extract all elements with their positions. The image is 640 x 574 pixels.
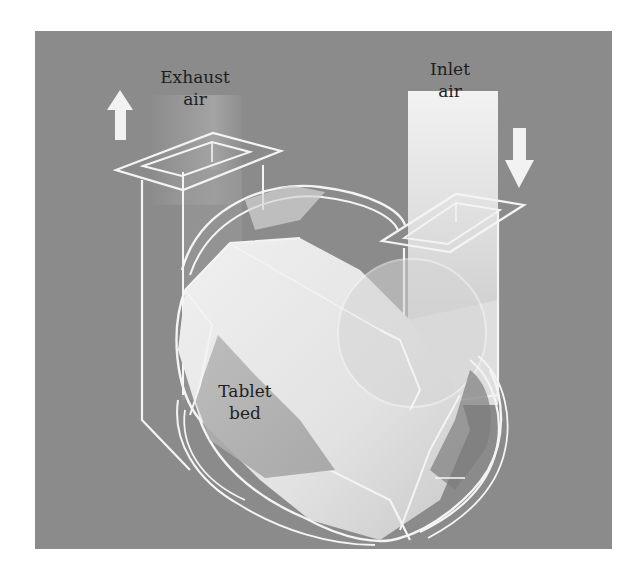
inlet-label-line2: air xyxy=(410,80,490,102)
exhaust-label-line1: Exhaust xyxy=(150,66,240,88)
exhaust-label-line2: air xyxy=(150,88,240,110)
inlet-label-line1: Inlet xyxy=(410,58,490,80)
arrow-down-icon xyxy=(505,128,534,188)
tablet-bed-label: Tablet bed xyxy=(205,380,285,424)
inlet-air-label: Inlet air xyxy=(410,58,490,102)
tablet-label-line2: bed xyxy=(205,402,285,424)
tablet-label-line1: Tablet xyxy=(205,380,285,402)
arrow-up-icon xyxy=(107,90,133,140)
exhaust-air-label: Exhaust air xyxy=(150,66,240,110)
coater-diagram xyxy=(0,0,640,574)
